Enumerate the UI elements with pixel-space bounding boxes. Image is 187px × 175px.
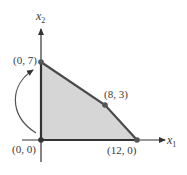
label-12-0: (12, 0) (107, 144, 137, 157)
vertex-0-0 (38, 137, 44, 143)
label-0-7: (0, 7) (13, 54, 37, 67)
feasible-region-diagram: x2 x1 (0, 7) (8, 3) (0, 0) (12, 0) (0, 0, 187, 175)
x1-axis-label: x1 (166, 133, 176, 149)
label-8-3: (8, 3) (104, 88, 128, 101)
x2-axis-label: x2 (35, 9, 45, 25)
vertex-0-7 (38, 59, 44, 65)
label-0-0: (0, 0) (12, 143, 36, 156)
vertex-8-3 (102, 102, 108, 108)
feasible-region (41, 62, 137, 140)
curved-arrow (15, 70, 36, 133)
vertex-12-0 (134, 137, 140, 143)
